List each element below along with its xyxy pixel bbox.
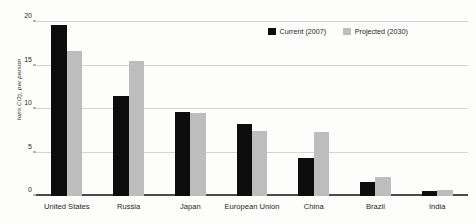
legend-swatch-icon [343, 28, 351, 36]
bar-group: Brazil [360, 22, 391, 196]
x-tick-label: Russia [117, 202, 140, 211]
bar-projected[interactable] [129, 61, 144, 196]
y-axis-title-post: , per person [15, 59, 22, 94]
bar-group: United States [51, 22, 82, 196]
x-tick-label: European Union [225, 202, 280, 211]
x-tick-label: Brazil [366, 202, 385, 211]
legend-entry[interactable]: Projected (2030) [343, 27, 408, 36]
plot-area: 05101520 United StatesRussiaJapanEuropea… [36, 22, 468, 196]
bar-group: India [422, 22, 453, 196]
x-tick-label: China [304, 202, 324, 211]
bar-chart-figure: tons CO2, per person 05101520 United Sta… [0, 0, 476, 224]
y-tick-label-20: 20 [24, 12, 32, 19]
bar-projected[interactable] [190, 113, 205, 196]
y-tick-label-0: 0 [28, 186, 32, 193]
bar-group: Japan [175, 22, 206, 196]
y-tick-label-5: 5 [28, 142, 32, 149]
bar-projected[interactable] [67, 51, 82, 196]
legend-label: Projected (2030) [355, 27, 408, 36]
legend-label: Current (2007) [280, 27, 327, 36]
bar-current[interactable] [113, 96, 128, 196]
chart-legend: Current (2007)Projected (2030) [268, 27, 408, 36]
y-axis-title: tons CO2, per person [15, 42, 22, 138]
bar-current[interactable] [422, 191, 437, 196]
bar-projected[interactable] [314, 132, 329, 196]
legend-entry[interactable]: Current (2007) [268, 27, 326, 36]
y-tick-label-15: 15 [24, 55, 32, 62]
bar-group: Russia [113, 22, 144, 196]
bar-current[interactable] [360, 182, 375, 196]
bar-current[interactable] [51, 25, 66, 196]
y-axis-title-subscript: 2 [18, 94, 23, 97]
legend-swatch-icon [268, 28, 276, 36]
bar-projected[interactable] [375, 177, 390, 196]
x-tick-label: United States [44, 202, 90, 211]
bar-projected[interactable] [437, 190, 452, 196]
bar-projected[interactable] [252, 131, 267, 196]
y-tick-label-10: 10 [24, 99, 32, 106]
x-tick-label: Japan [180, 202, 201, 211]
bar-current[interactable] [237, 124, 252, 196]
bars-layer: United StatesRussiaJapanEuropean UnionCh… [36, 22, 468, 196]
x-tick-label: India [429, 202, 445, 211]
bar-current[interactable] [298, 158, 313, 196]
bar-group: European Union [237, 22, 268, 196]
bar-current[interactable] [175, 112, 190, 196]
y-axis-title-pre: tons CO [15, 96, 22, 120]
bar-group: China [298, 22, 329, 196]
